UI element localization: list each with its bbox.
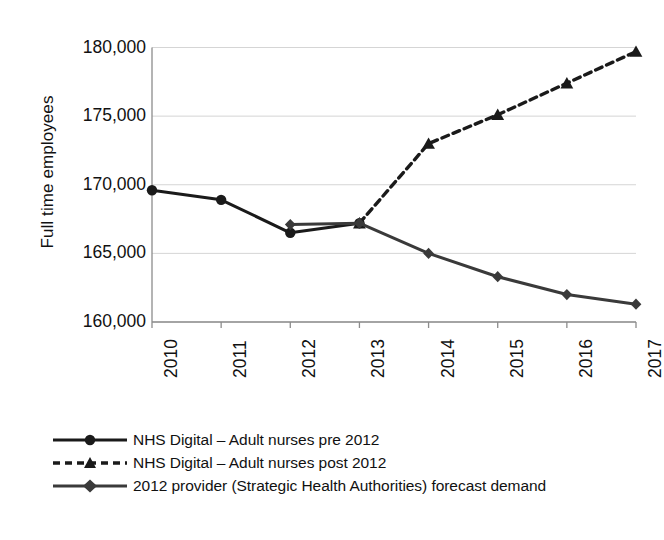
chart-legend: NHS Digital – Adult nurses pre 2012 NHS …: [47, 428, 647, 497]
legend-item-forecast-demand[interactable]: 2012 provider (Strategic Health Authorit…: [47, 474, 647, 497]
data-series: [147, 45, 643, 309]
legend-item-pre-2012[interactable]: NHS Digital – Adult nurses pre 2012: [47, 428, 647, 451]
legend-label: NHS Digital – Adult nurses post 2012: [133, 454, 386, 472]
legend-label: NHS Digital – Adult nurses pre 2012: [133, 431, 379, 449]
line-chart: Full time employees 160,000165,000170,00…: [0, 0, 664, 540]
triangle-marker-icon: [47, 453, 133, 473]
legend-item-post-2012[interactable]: NHS Digital – Adult nurses post 2012: [47, 451, 647, 474]
axis-ticks: [152, 322, 636, 328]
legend-label: 2012 provider (Strategic Health Authorit…: [133, 477, 546, 495]
circle-marker-icon: [47, 430, 133, 450]
diamond-marker-icon: [47, 476, 133, 496]
